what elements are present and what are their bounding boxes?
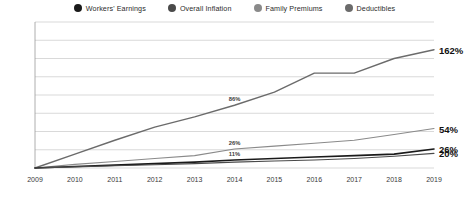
series-mid-label: 26% <box>229 140 241 146</box>
series-end-label: 162% <box>439 44 463 55</box>
series-mid-label: 11% <box>229 151 240 157</box>
data-labels: 162%86%54%26%26%11%20% <box>0 0 469 200</box>
series-end-label: 20% <box>439 148 458 159</box>
premium-growth-line-chart: Workers' EarningsOverall InflationFamily… <box>0 0 469 200</box>
series-end-label: 54% <box>439 123 458 134</box>
series-mid-label: 86% <box>229 96 241 102</box>
